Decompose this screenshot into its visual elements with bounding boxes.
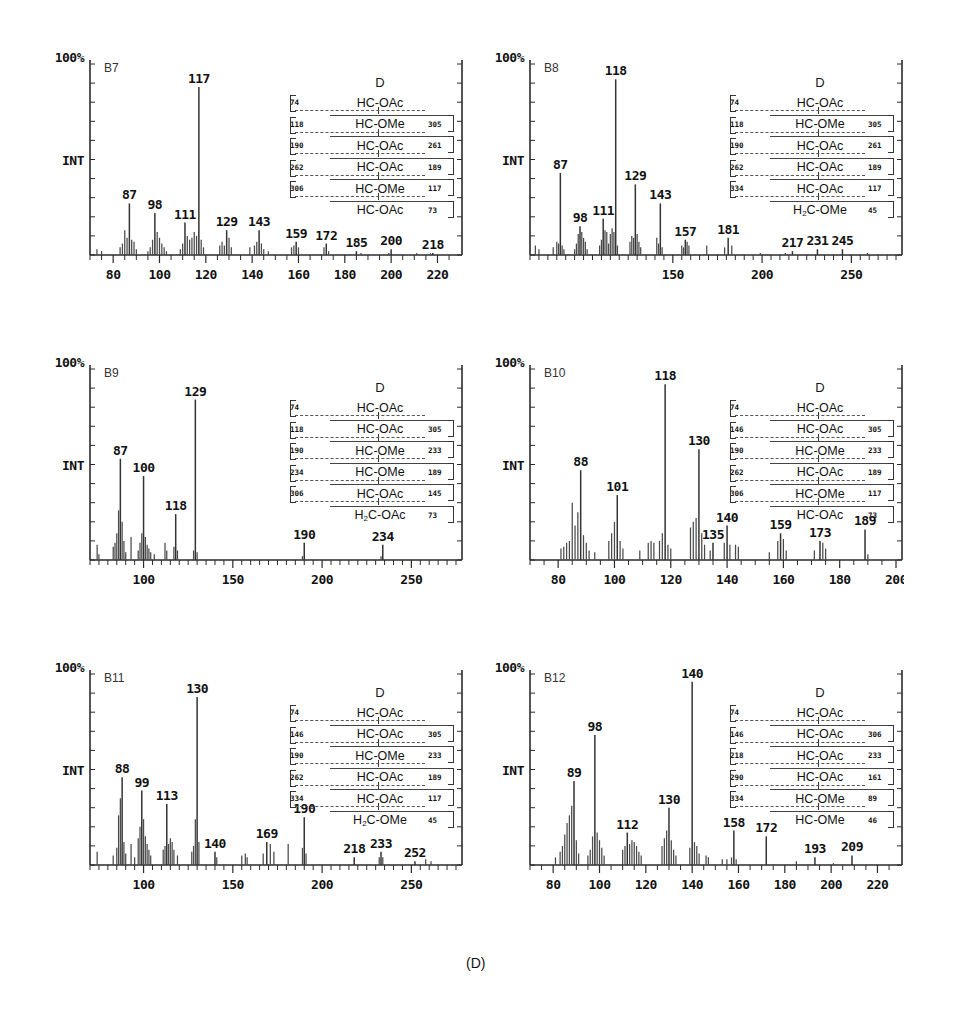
deuterium-label: D — [774, 380, 866, 395]
fragment-mass-right: 189 — [428, 163, 442, 172]
structure-formula: HC-OMe — [334, 117, 426, 131]
structure-formula: HC-OAc — [334, 706, 426, 720]
cleavage-line — [770, 746, 888, 747]
cleavage-line — [735, 501, 865, 502]
cleavage-line — [330, 115, 448, 116]
panel-id-label: B9 — [104, 366, 119, 380]
spectrum-panel-b8: 100%INTB81502002508798111118129143157181… — [484, 50, 904, 290]
peak-mz-label: 140 — [204, 836, 227, 851]
cleavage-line — [735, 806, 865, 807]
cleavage-bracket-right — [888, 420, 894, 437]
cleavage-bracket-right — [448, 484, 454, 501]
x-tick-label: 160 — [772, 572, 795, 587]
cleavage-line — [295, 153, 425, 154]
cleavage-bracket-right — [448, 179, 454, 196]
fragment-mass-right: 117 — [428, 184, 442, 193]
cleavage-line — [295, 110, 425, 111]
peak-mz-label: 135 — [702, 527, 724, 542]
fragment-mass-right: 189 — [428, 468, 442, 477]
x-tick-label: 180 — [774, 877, 797, 892]
structure-formula: H2C-OAc — [334, 508, 426, 523]
cleavage-bracket-right — [888, 179, 894, 196]
x-tick-label: 160 — [727, 877, 750, 892]
peak-mz-label: 190 — [293, 527, 316, 542]
x-tick-label: 120 — [195, 267, 218, 282]
cleavage-bracket-right — [448, 201, 454, 218]
structure-formula: HC-OAc — [774, 96, 866, 110]
fragment-mass-right: 89 — [868, 794, 877, 803]
cleavage-line — [770, 179, 888, 180]
spectrum-panel-b9: 100%INTB910015020025087100118129190234D7… — [44, 355, 464, 595]
cleavage-line — [770, 201, 888, 202]
peak-mz-label: 113 — [156, 788, 178, 803]
cleavage-line — [295, 720, 425, 721]
x-tick-label: 200 — [751, 267, 774, 282]
cleavage-bracket-right — [448, 463, 454, 480]
cleavage-line — [295, 806, 425, 807]
peak-mz-label: 218 — [422, 237, 445, 252]
fragment-mass-right: 73 — [868, 511, 877, 520]
figure-caption: (D) — [466, 955, 485, 971]
x-tick-label: 120 — [635, 877, 658, 892]
peak-mz-label: 112 — [616, 817, 638, 832]
x-tick-label: 200 — [885, 572, 904, 587]
cleavage-bracket-right — [888, 115, 894, 132]
structure-formula: HC-OMe — [334, 182, 426, 196]
structure-formula: HC-OMe — [774, 444, 866, 458]
cleavage-bracket-right — [888, 746, 894, 763]
cleavage-bracket-right — [888, 136, 894, 153]
panel-id-label: B11 — [104, 671, 125, 685]
fragment-structure-diagram: D74HC-OAc118HC-OMe305190HC-OAc261262HC-O… — [290, 78, 475, 221]
x-tick-label: 180 — [334, 267, 357, 282]
panel-id-label: B7 — [104, 61, 119, 75]
fragment-mass-right: 305 — [428, 730, 442, 739]
cleavage-bracket-right — [448, 768, 454, 785]
x-tick-label: 220 — [866, 877, 889, 892]
cleavage-bracket-right — [888, 158, 894, 175]
cleavage-line — [770, 463, 888, 464]
cleavage-line — [330, 441, 448, 442]
cleavage-line — [330, 506, 448, 507]
fragment-mass-right: 305 — [868, 425, 882, 434]
peak-mz-label: 159 — [285, 226, 307, 241]
cleavage-line — [735, 110, 865, 111]
x-tick-label: 220 — [426, 267, 449, 282]
cleavage-line — [295, 763, 425, 764]
cleavage-line — [295, 742, 425, 743]
cleavage-bracket-right — [888, 768, 894, 785]
peak-mz-label: 245 — [831, 233, 853, 248]
peak-mz-label: 185 — [345, 235, 367, 250]
structure-formula: HC-OAc — [334, 160, 426, 174]
cleavage-line — [735, 720, 865, 721]
cleavage-line — [770, 725, 888, 726]
fragment-mass-right: 233 — [428, 446, 442, 455]
structure-formula: HC-OAc — [774, 706, 866, 720]
cleavage-line — [295, 196, 425, 197]
cleavage-line — [770, 506, 888, 507]
y-axis-label: INT — [502, 153, 525, 168]
cleavage-line — [735, 175, 865, 176]
y-axis-top-label: 100% — [55, 355, 85, 370]
cleavage-line — [295, 415, 425, 416]
peak-mz-label: 143 — [248, 214, 270, 229]
structure-formula: HC-OAc — [774, 401, 866, 415]
peak-mz-label: 200 — [380, 233, 403, 248]
structure-formula: HC-OMe — [334, 444, 426, 458]
x-tick-label: 120 — [660, 572, 683, 587]
panel-id-label: B10 — [544, 366, 566, 380]
structure-formula: HC-OAc — [334, 422, 426, 436]
cleavage-line — [330, 179, 448, 180]
structure-formula: HC-OAc — [334, 203, 426, 217]
peak-mz-label: 209 — [841, 839, 863, 854]
x-tick-label: 180 — [829, 572, 852, 587]
fragment-mass-right: 261 — [868, 141, 882, 150]
fragment-mass-right: 145 — [428, 489, 442, 498]
peak-mz-label: 118 — [165, 498, 188, 513]
structure-formula: HC-OAc — [334, 96, 426, 110]
peak-mz-label: 130 — [688, 433, 711, 448]
cleavage-bracket-right — [888, 201, 894, 218]
peak-mz-label: 118 — [654, 368, 677, 383]
x-tick-label: 150 — [222, 877, 245, 892]
peak-mz-label: 89 — [567, 765, 582, 780]
peak-mz-label: 98 — [573, 210, 588, 225]
